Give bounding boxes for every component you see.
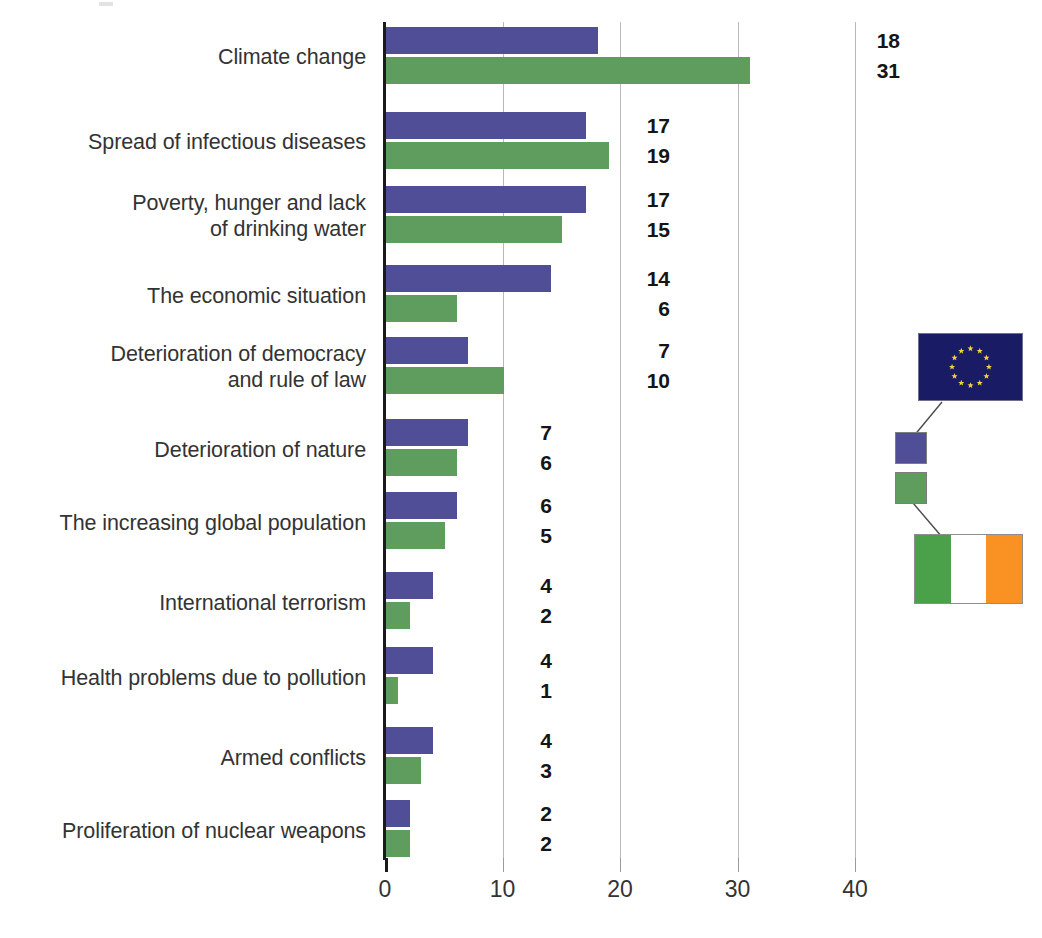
ireland-flag-icon (914, 534, 1023, 604)
value-label-ireland: 1 (518, 677, 552, 704)
value-label-eu: 17 (636, 112, 670, 139)
value-label-ireland: 31 (866, 57, 900, 84)
category-label-line: and rule of law (0, 367, 366, 393)
category-label-line: Deterioration of democracy (0, 341, 366, 367)
bar-pair (386, 337, 504, 394)
bar-ireland (386, 449, 457, 476)
value-labels: 710 (636, 337, 670, 394)
category-label-line: Health problems due to pollution (0, 665, 366, 691)
bar-eu (386, 419, 468, 446)
category-label: The increasing global population (0, 510, 366, 536)
value-labels: 41 (518, 647, 552, 704)
x-tick-label: 30 (708, 876, 768, 903)
category-label: Armed conflicts (0, 745, 366, 771)
value-label-eu: 2 (518, 800, 552, 827)
value-labels: 1715 (636, 186, 670, 243)
value-label-ireland: 5 (518, 522, 552, 549)
category-label: Poverty, hunger and lackof drinking wate… (0, 190, 366, 242)
bar-pair (386, 419, 468, 476)
ireland-flag-green-band (915, 535, 951, 603)
value-label-ireland: 19 (636, 142, 670, 169)
eu-flag-icon (918, 333, 1023, 401)
value-label-ireland: 3 (518, 757, 552, 784)
bar-ireland (386, 57, 750, 84)
bar-eu (386, 727, 433, 754)
value-labels: 76 (518, 419, 552, 476)
x-tick (855, 858, 856, 872)
eu-stars-icon (919, 334, 1022, 400)
bar-chart: Climate change1831Spread of infectious d… (0, 0, 1042, 938)
bar-ireland (386, 677, 398, 704)
scan-artifact (99, 2, 113, 6)
category-label: Health problems due to pollution (0, 665, 366, 691)
bar-ireland (386, 216, 562, 243)
bar-eu (386, 647, 433, 674)
bar-ireland (386, 757, 421, 784)
bar-ireland (386, 295, 457, 322)
x-tick (738, 858, 739, 872)
ireland-flag-white-band (951, 535, 987, 603)
gridline-20 (620, 22, 621, 858)
value-label-ireland: 2 (518, 830, 552, 857)
value-label-eu: 14 (636, 265, 670, 292)
bar-eu (386, 186, 586, 213)
bar-pair (386, 492, 457, 549)
bar-ireland (386, 142, 609, 169)
ireland-flag-orange-band (986, 535, 1022, 603)
value-label-eu: 4 (518, 647, 552, 674)
bar-ireland (386, 522, 445, 549)
category-label-line: of drinking water (0, 216, 366, 242)
x-tick-label: 10 (473, 876, 533, 903)
bar-ireland (386, 602, 410, 629)
value-label-eu: 7 (636, 337, 670, 364)
bar-pair (386, 265, 551, 322)
value-label-ireland: 2 (518, 602, 552, 629)
value-label-ireland: 10 (636, 367, 670, 394)
x-tick-label: 0 (355, 876, 415, 903)
x-tick (385, 858, 388, 872)
bar-ireland (386, 367, 504, 394)
x-tick (503, 858, 504, 872)
bar-pair (386, 727, 433, 784)
value-label-eu: 4 (518, 572, 552, 599)
bar-pair (386, 572, 433, 629)
gridline-30 (738, 22, 739, 858)
bar-ireland (386, 830, 410, 857)
value-labels: 65 (518, 492, 552, 549)
x-tick-label: 20 (590, 876, 650, 903)
legend-swatch-eu (895, 432, 927, 464)
category-label-line: Deterioration of nature (0, 437, 366, 463)
category-label: International terrorism (0, 590, 366, 616)
value-labels: 42 (518, 572, 552, 629)
category-label: Deterioration of nature (0, 437, 366, 463)
category-label: The economic situation (0, 283, 366, 309)
value-label-eu: 18 (866, 27, 900, 54)
bar-eu (386, 112, 586, 139)
value-label-eu: 7 (518, 419, 552, 446)
category-label-line: Poverty, hunger and lack (0, 190, 366, 216)
bar-pair (386, 112, 609, 169)
value-label-ireland: 15 (636, 216, 670, 243)
value-labels: 43 (518, 727, 552, 784)
bar-eu (386, 265, 551, 292)
category-label: Spread of infectious diseases (0, 129, 366, 155)
bar-eu (386, 27, 598, 54)
value-labels: 1831 (866, 27, 900, 84)
legend-swatch-ireland (895, 472, 927, 504)
category-label: Deterioration of democracyand rule of la… (0, 341, 366, 393)
category-label-line: Climate change (0, 44, 366, 70)
value-label-ireland: 6 (518, 449, 552, 476)
x-tick-label: 40 (825, 876, 885, 903)
value-labels: 1719 (636, 112, 670, 169)
bar-eu (386, 337, 468, 364)
bar-pair (386, 800, 410, 857)
x-tick (620, 858, 621, 872)
category-label-line: The increasing global population (0, 510, 366, 536)
bar-pair (386, 27, 750, 84)
bar-eu (386, 572, 433, 599)
value-label-eu: 6 (518, 492, 552, 519)
category-label-line: Armed conflicts (0, 745, 366, 771)
category-label-line: Proliferation of nuclear weapons (0, 818, 366, 844)
gridline-40 (855, 22, 856, 858)
category-label-line: The economic situation (0, 283, 366, 309)
